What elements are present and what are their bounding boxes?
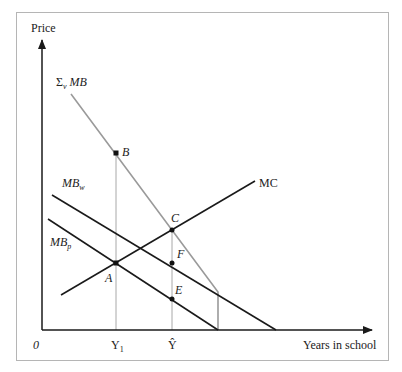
tick-y1: Y1 bbox=[111, 338, 124, 354]
point-f-marker bbox=[170, 261, 175, 266]
tick-yhat: Ŷ bbox=[168, 338, 177, 352]
mbp-line bbox=[48, 219, 218, 330]
sum-symbol: Σ bbox=[56, 75, 63, 89]
sum-mb-label: Σv MB bbox=[56, 75, 88, 91]
point-a-marker bbox=[114, 261, 119, 266]
point-a-label: A bbox=[104, 271, 113, 285]
mbw-label: MBw bbox=[61, 176, 85, 192]
tick-y1-main: Y bbox=[111, 338, 120, 352]
sum-tail: MB bbox=[67, 75, 88, 89]
point-c-marker bbox=[170, 228, 175, 233]
y-axis-label: Price bbox=[31, 21, 56, 35]
mbp-main: MB bbox=[49, 235, 68, 249]
point-f-label: F bbox=[176, 247, 185, 261]
diagram-canvas: Price Years in school 0 Y1 Ŷ Σv MB MBw M… bbox=[0, 0, 402, 372]
tick-y1-sub: 1 bbox=[120, 345, 124, 354]
point-c-label: C bbox=[171, 211, 180, 225]
point-b-marker bbox=[114, 151, 119, 156]
origin-label: 0 bbox=[33, 338, 39, 352]
mbp-label: MBp bbox=[49, 235, 71, 251]
point-e-marker bbox=[170, 297, 175, 302]
mbw-main: MB bbox=[61, 176, 80, 190]
point-b-label: B bbox=[122, 145, 130, 159]
mc-line bbox=[61, 181, 255, 295]
mbw-line bbox=[52, 195, 276, 330]
x-axis-label: Years in school bbox=[303, 338, 377, 352]
mc-label: MC bbox=[259, 176, 278, 190]
mbp-sub: p bbox=[66, 242, 71, 251]
mbw-sub: w bbox=[79, 183, 85, 192]
sum-mb-curve bbox=[71, 94, 218, 330]
point-e-label: E bbox=[174, 283, 183, 297]
